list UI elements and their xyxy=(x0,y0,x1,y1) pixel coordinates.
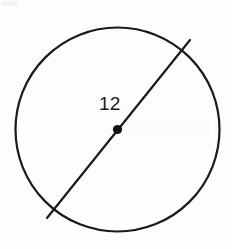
geometry-figure: 12 xyxy=(0,0,232,249)
circle-diagram-canvas xyxy=(0,0,232,249)
center-point-dot xyxy=(113,125,122,134)
diameter-measure-label: 12 xyxy=(99,94,121,113)
